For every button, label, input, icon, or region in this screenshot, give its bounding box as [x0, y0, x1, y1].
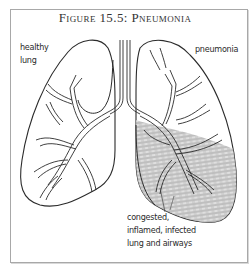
label-pneumonia: pneumonia [195, 42, 238, 55]
label-healthy-lung: healthy lung [20, 40, 49, 66]
label-congested: congested, inflamed, infected lung and a… [127, 210, 196, 249]
trachea [108, 40, 142, 114]
left-bronchi [34, 75, 110, 200]
